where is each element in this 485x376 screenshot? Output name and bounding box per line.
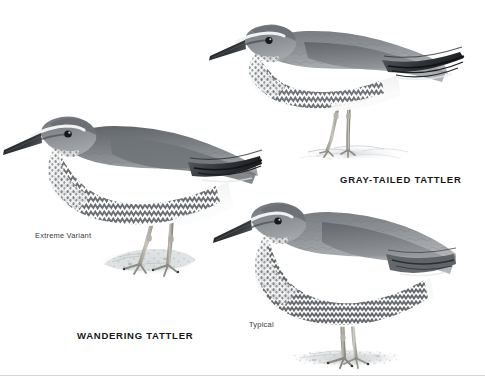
underparts: [255, 240, 434, 327]
head: [251, 203, 306, 244]
neck-speckling: [255, 234, 298, 306]
wing-coverts: [304, 42, 446, 82]
label-typical: Typical: [249, 320, 274, 329]
neck-speckling: [48, 146, 90, 210]
bird-gray-tailed-tattler: [212, 12, 470, 164]
wing-tip-primaries: [382, 47, 464, 77]
wing-tip-primaries: [188, 150, 262, 177]
mantle: [64, 126, 258, 176]
mantle: [274, 212, 456, 264]
wing-coverts: [322, 222, 454, 274]
sand-ground: [288, 349, 404, 367]
label-extreme-variant: Extreme Variant: [35, 231, 91, 240]
legs: [123, 215, 179, 276]
supercilium: [236, 33, 284, 42]
eye: [64, 130, 72, 137]
illustration-plate: GRAY-TAILED TATTLER WANDERING TATTLER Ex…: [0, 0, 485, 376]
bird-wandering-tattler-typical: [218, 198, 458, 376]
wing-tip-primaries: [386, 248, 456, 273]
water-ripples: [294, 144, 410, 162]
supercilium: [32, 126, 84, 136]
underparts: [50, 152, 232, 226]
head: [41, 117, 96, 157]
legs: [327, 316, 370, 368]
neck-speckling: [249, 52, 286, 98]
bird-wandering-tattler-extreme-variant: [12, 112, 262, 297]
underpart-barring: [259, 244, 428, 325]
breast-barring: [255, 62, 384, 108]
head: [245, 24, 296, 61]
underparts: [250, 59, 400, 110]
eye: [274, 218, 281, 225]
legs: [320, 104, 355, 157]
rock-ground: [98, 249, 198, 275]
wing-coverts: [110, 136, 256, 184]
label-wandering-tattler: WANDERING TATTLER: [77, 330, 193, 341]
underpart-barring: [54, 158, 220, 224]
label-gray-tailed-tattler: GRAY-TAILED TATTLER: [340, 174, 462, 185]
supercilium: [246, 213, 292, 223]
eye: [265, 37, 272, 44]
bill: [209, 40, 246, 61]
bill: [213, 220, 252, 243]
bill: [3, 133, 42, 155]
mantle: [264, 31, 448, 74]
